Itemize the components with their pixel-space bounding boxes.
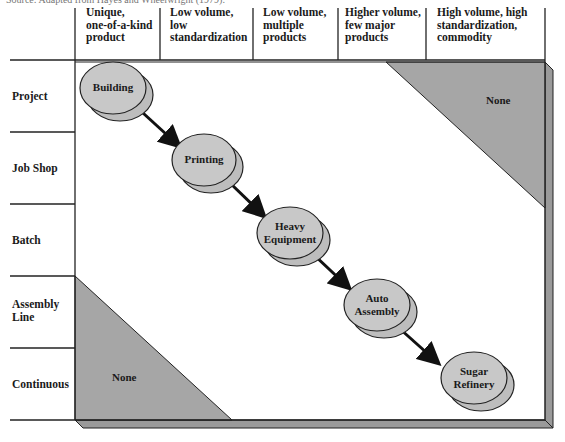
- column-header-line: standardization,: [437, 19, 527, 32]
- column-header-low-volume-multiple: Low volume, multiple products: [263, 6, 326, 44]
- row-label-batch: Batch: [12, 234, 41, 247]
- column-header-line: Unique,: [86, 6, 152, 19]
- node-label-line: Refinery: [441, 378, 507, 391]
- node-label-line: Building: [80, 81, 146, 94]
- node-label-line: Auto: [344, 292, 410, 305]
- column-header-line: few major: [345, 19, 421, 32]
- column-header-unique: Unique, one-of-a-kind product: [86, 6, 152, 44]
- column-header-low-volume-low-standardization: Low volume, low standardization: [170, 6, 247, 44]
- node-label-line: Assembly: [344, 305, 410, 318]
- none-label-top-right: None: [486, 94, 510, 106]
- row-label-job-shop: Job Shop: [12, 162, 58, 175]
- node-label-sugar-refinery: Sugar Refinery: [441, 365, 507, 391]
- none-label-bottom-left: None: [112, 371, 136, 383]
- column-header-line: standardization: [170, 31, 247, 44]
- column-header-line: low: [170, 19, 247, 32]
- column-header-line: multiple: [263, 19, 326, 32]
- node-label-auto-assembly: Auto Assembly: [344, 292, 410, 318]
- column-header-high-volume: High volume, high standardization, commo…: [437, 6, 527, 44]
- node-label-building: Building: [80, 81, 146, 94]
- column-header-line: Low volume,: [170, 6, 247, 19]
- column-header-line: Higher volume,: [345, 6, 421, 19]
- column-header-line: commodity: [437, 31, 527, 44]
- none-region-bottom-left: [75, 276, 232, 420]
- node-label-line: Equipment: [257, 233, 323, 246]
- node-label-line: Printing: [172, 153, 236, 166]
- node-label-heavy-equipment: Heavy Equipment: [257, 220, 323, 246]
- row-label-line: Line: [12, 311, 59, 324]
- column-header-line: product: [86, 31, 152, 44]
- column-header-line: products: [345, 31, 421, 44]
- node-label-printing: Printing: [172, 153, 236, 166]
- row-label-assembly-line: Assembly Line: [12, 298, 59, 324]
- row-label-project: Project: [12, 90, 48, 103]
- column-header-line: one-of-a-kind: [86, 19, 152, 32]
- node-label-line: Sugar: [441, 365, 507, 378]
- row-label-line: Assembly: [12, 298, 59, 311]
- node-label-line: Heavy: [257, 220, 323, 233]
- row-label-continuous: Continuous: [12, 378, 69, 391]
- column-header-line: products: [263, 31, 326, 44]
- none-region-top-right: [386, 62, 545, 208]
- column-header-line: High volume, high: [437, 6, 527, 19]
- column-header-higher-volume: Higher volume, few major products: [345, 6, 421, 44]
- column-header-line: Low volume,: [263, 6, 326, 19]
